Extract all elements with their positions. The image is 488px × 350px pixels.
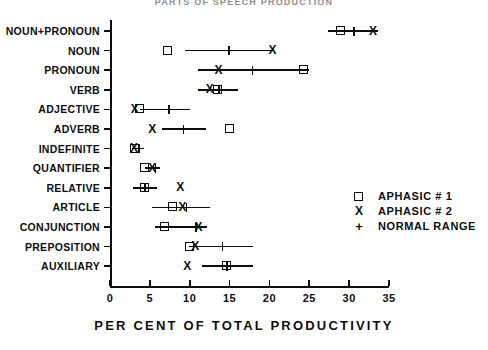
aphasic1-square-marker: [168, 202, 177, 211]
aphasic1-square-marker: [160, 222, 169, 231]
y-tick: [104, 246, 110, 248]
y-tick: [104, 89, 110, 91]
y-tick: [104, 69, 110, 71]
category-label-noun: NOUN: [68, 46, 100, 56]
x-tick: [388, 280, 390, 286]
y-tick: [104, 128, 110, 130]
aphasic2-x-marker: X: [147, 163, 158, 174]
x-tick-label: 0: [95, 292, 125, 304]
aphasic1-square-marker: [163, 46, 172, 55]
normal-range-tick: [168, 105, 170, 114]
aphasic1-square-marker: [336, 26, 345, 35]
normal-range-line: [140, 109, 189, 111]
category-label-preposition: PREPOSITION: [25, 242, 100, 252]
x-tick: [149, 280, 151, 286]
y-tick: [104, 167, 110, 169]
y-tick: [104, 226, 110, 228]
y-tick: [104, 50, 110, 52]
category-label-pronoun: PRONOUN: [44, 65, 100, 75]
legend-label: APHASIC # 1: [378, 190, 452, 203]
category-label-conjunction: CONJUNCTION: [20, 222, 100, 232]
x-tick-label: 10: [175, 292, 205, 304]
x-marker: X: [352, 205, 366, 218]
category-label-adjective: ADJECTIVE: [38, 104, 100, 114]
legend-label: APHASIC # 2: [378, 205, 452, 218]
category-label-adverb: ADVERB: [54, 124, 100, 134]
category-label-quantifier: QUANTIFIER: [33, 163, 100, 173]
x-tick: [269, 280, 271, 286]
x-tick: [348, 280, 350, 286]
aphasic2-x-marker: X: [213, 65, 224, 76]
x-axis-line: [110, 286, 389, 288]
category-label-auxiliary: AUXILIARY: [41, 261, 100, 271]
x-tick-label: 35: [374, 292, 404, 304]
category-label-indefinite: INDEFINITE: [39, 144, 100, 154]
x-tick-label: 5: [135, 292, 165, 304]
aphasic1-square-marker: [222, 261, 231, 270]
aphasic2-x-marker: X: [368, 26, 379, 37]
square-marker: [354, 192, 363, 201]
parts-of-speech-chart: PARTS OF SPEECH PRODUCTION NOUN+PRONOUNN…: [0, 0, 488, 350]
x-tick: [229, 280, 231, 286]
aphasic2-x-marker: X: [182, 261, 193, 272]
x-tick-label: 30: [334, 292, 364, 304]
x-tick-label: 20: [254, 292, 284, 304]
x-tick: [109, 280, 111, 286]
y-tick: [104, 207, 110, 209]
normal-range-tick: [353, 27, 355, 36]
y-tick: [104, 109, 110, 111]
aphasic1-square-marker: [140, 183, 149, 192]
y-tick: [104, 265, 110, 267]
aphasic2-x-marker: X: [129, 104, 140, 115]
category-label-noun-pronoun: NOUN+PRONOUN: [6, 26, 100, 36]
aphasic2-x-marker: X: [147, 124, 158, 135]
aphasic2-x-marker: X: [267, 45, 278, 56]
aphasic2-x-marker: X: [190, 241, 201, 252]
x-tick-label: 15: [215, 292, 245, 304]
x-axis-label: PER CENT OF TOTAL PRODUCTIVITY: [0, 318, 488, 333]
plus-marker: +: [352, 220, 366, 233]
aphasic2-x-marker: X: [128, 143, 139, 154]
aphasic1-square-marker: [299, 65, 308, 74]
aphasic2-x-marker: X: [204, 84, 215, 95]
category-label-article: ARTICLE: [52, 202, 100, 212]
x-tick: [189, 280, 191, 286]
aphasic2-x-marker: X: [175, 182, 186, 193]
y-tick: [104, 30, 110, 32]
y-axis-line: [110, 20, 112, 286]
aphasic2-x-marker: X: [193, 222, 204, 233]
normal-range-tick: [228, 46, 230, 55]
aphasic2-x-marker: X: [177, 202, 188, 213]
x-tick-label: 25: [294, 292, 324, 304]
legend-label: NORMAL RANGE: [378, 220, 476, 233]
x-tick: [308, 280, 310, 286]
normal-range-tick: [222, 242, 224, 251]
aphasic1-square-marker: [225, 124, 234, 133]
y-tick: [104, 187, 110, 189]
category-label-verb: VERB: [70, 85, 100, 95]
normal-range-tick: [252, 66, 254, 75]
plot-area: NOUN+PRONOUNNOUNPRONOUNVERBADJECTIVEADVE…: [0, 0, 488, 350]
category-label-relative: RELATIVE: [46, 183, 100, 193]
normal-range-tick: [183, 125, 185, 134]
y-tick: [104, 148, 110, 150]
